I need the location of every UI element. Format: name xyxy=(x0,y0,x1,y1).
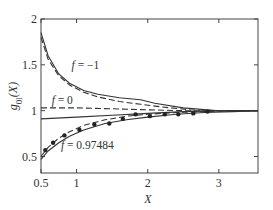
data-point xyxy=(92,122,96,126)
y-tick-label: 1.5 xyxy=(22,58,37,72)
x-tick-label: 1 xyxy=(74,176,80,190)
x-tick-label: 2 xyxy=(145,176,151,190)
data-point xyxy=(107,121,111,125)
curve-annotation: f = 0.97484 xyxy=(61,139,114,152)
data-point xyxy=(148,114,152,118)
data-point xyxy=(176,112,180,116)
y-axis-label: g0l(X) xyxy=(6,82,24,110)
data-point xyxy=(191,111,195,115)
curve-annotation: f = 0 xyxy=(52,94,73,107)
x-tick-label: 0.5 xyxy=(34,176,49,190)
data-point xyxy=(163,112,167,116)
series-line xyxy=(41,33,258,111)
data-point xyxy=(62,133,66,137)
annotations: f = −1f = 0f = 0.97484 xyxy=(52,59,114,152)
data-point xyxy=(133,112,137,116)
x-tick-label: 3 xyxy=(216,176,222,190)
data-point xyxy=(121,117,125,121)
x-axis-label: X xyxy=(143,192,152,206)
data-point xyxy=(77,128,81,132)
chart: 0.51230.511.52 f = −1f = 0f = 0.97484 X … xyxy=(0,0,273,210)
series-line xyxy=(41,37,258,110)
curve-annotation: f = −1 xyxy=(72,59,100,72)
y-tick-label: 0.5 xyxy=(22,150,37,164)
data-point xyxy=(43,148,47,152)
y-tick-label: 2 xyxy=(31,12,37,26)
y-tick-label: 1 xyxy=(31,104,37,118)
data-point xyxy=(205,109,209,113)
data-point xyxy=(51,141,55,145)
